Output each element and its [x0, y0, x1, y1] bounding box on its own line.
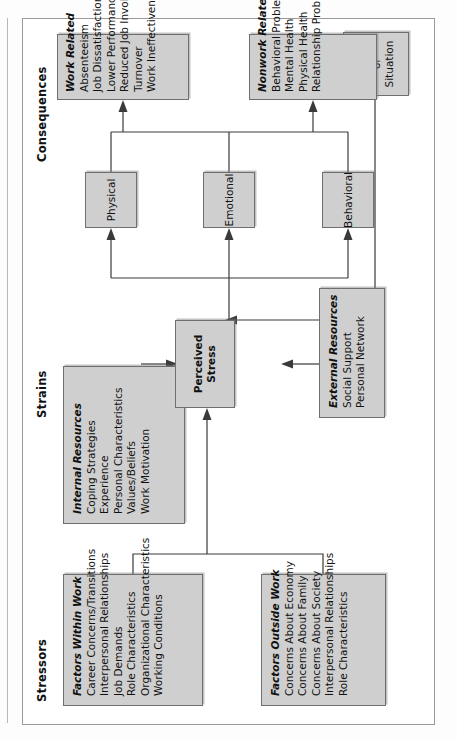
- box-item: Reduced Job Involvement: [118, 42, 132, 92]
- diagram-rotation-wrapper: Stressors Strains Consequences Factors W…: [22, 18, 435, 725]
- appraisal-line3: Situation: [383, 40, 396, 89]
- box-title: Internal Resources: [71, 376, 85, 514]
- arrowhead-trunk-to-perceived-stress: [203, 408, 212, 420]
- box-item: Personal Network: [354, 298, 368, 408]
- perceived-stress-line1: Perceived: [192, 335, 205, 393]
- column-heading-consequences: Consequences: [35, 67, 49, 162]
- link-outside-work-to-trunk: [207, 554, 323, 574]
- arrowhead-trunk-to-behavioral: [344, 228, 353, 240]
- box-item: Social Support: [341, 298, 355, 408]
- box-title: Factors Outside Work: [269, 584, 283, 696]
- strain-physical-label: Physical: [105, 179, 118, 222]
- box-factors-outside-work-content: Factors Outside Work Concerns About Econ…: [262, 575, 356, 705]
- box-factors-within-work-content: Factors Within Work Career Concerns/Tran…: [64, 575, 172, 705]
- box-item: Role Characteristics: [125, 584, 139, 696]
- box-item: Work Motivation: [139, 376, 153, 514]
- box-item: Role Characteristics: [337, 584, 351, 696]
- box-item: Absenteeism: [78, 42, 92, 92]
- box-nonwork-related-content: Nonwork Related Behavioral Problems Ment…: [250, 35, 330, 99]
- box-internal-resources[interactable]: Internal Resources Coping Strategies Exp…: [63, 366, 185, 524]
- box-item: Mental Health: [283, 42, 297, 92]
- column-heading-strains: Strains: [35, 370, 49, 418]
- arrowhead-external-to-stress: [281, 360, 293, 369]
- box-perceived-stress[interactable]: Perceived Stress: [175, 320, 235, 408]
- box-strain-physical[interactable]: Physical: [85, 172, 137, 228]
- strain-emotional-label: Emotional: [223, 174, 236, 227]
- box-work-related-content: Work Related Absenteeism Job Dissatisfac…: [58, 35, 165, 99]
- box-factors-outside-work[interactable]: Factors Outside Work Concerns About Econ…: [261, 574, 386, 706]
- arrowhead-trunk-to-physical: [107, 228, 116, 240]
- box-item: Concerns About Economy: [283, 584, 297, 696]
- box-item: Interpersonal Relationships: [98, 584, 112, 696]
- box-item: Work Ineffectiveness: [145, 42, 159, 92]
- box-item: Career Concerns/Transitions: [85, 584, 99, 696]
- box-item: Physical Health: [297, 42, 311, 92]
- box-title: Nonwork Related: [256, 42, 270, 92]
- box-item: Organizational Characteristics: [139, 584, 153, 696]
- box-title: External Resources: [327, 298, 341, 408]
- arrowhead-trunk-to-emotional: [225, 228, 234, 240]
- box-item: Interpersonal Relationships: [323, 584, 337, 696]
- strain-behavioral-label: Behavioral: [342, 172, 355, 228]
- box-title: Work Related: [64, 42, 78, 92]
- column-heading-stressors: Stressors: [35, 639, 49, 702]
- box-perceived-stress-label: Perceived Stress: [192, 335, 218, 393]
- box-item: Experience: [98, 376, 112, 514]
- box-item: Lower Performance: [105, 42, 119, 92]
- box-item: Relationship Problems: [310, 42, 324, 92]
- box-item: Personal Characteristics: [112, 376, 126, 514]
- box-item: Turnover: [132, 42, 146, 92]
- box-external-resources-content: External Resources Social Support Person…: [320, 289, 374, 417]
- box-item: Values/Beliefs: [125, 376, 139, 514]
- box-nonwork-related[interactable]: Nonwork Related Behavioral Problems Ment…: [249, 34, 377, 100]
- box-internal-resources-content: Internal Resources Coping Strategies Exp…: [64, 367, 158, 523]
- scanned-page: Stressors Strains Consequences Factors W…: [0, 0, 457, 741]
- perceived-stress-line2: Stress: [205, 335, 218, 393]
- box-factors-within-work[interactable]: Factors Within Work Career Concerns/Tran…: [63, 574, 203, 706]
- diagram-frame: Stressors Strains Consequences Factors W…: [22, 18, 435, 725]
- arrowhead-trunk-to-work-related: [119, 100, 128, 112]
- box-item: Coping Strategies: [85, 376, 99, 514]
- box-item: Working Conditions: [152, 584, 166, 696]
- box-title: Factors Within Work: [71, 584, 85, 696]
- box-work-related[interactable]: Work Related Absenteeism Job Dissatisfac…: [57, 34, 189, 100]
- box-strain-behavioral[interactable]: Behavioral: [322, 172, 374, 228]
- box-item: Job Dissatisfaction: [91, 42, 105, 92]
- box-item: Behavioral Problems: [270, 42, 284, 92]
- box-strain-emotional[interactable]: Emotional: [203, 172, 255, 228]
- arrowhead-trunk-to-nonwork-related: [309, 100, 318, 112]
- box-external-resources[interactable]: External Resources Social Support Person…: [319, 288, 385, 418]
- box-item: Concerns About Society: [310, 584, 324, 696]
- page-gutter-line: [7, 18, 8, 723]
- box-item: Concerns About Family: [296, 584, 310, 696]
- box-item: Job Demands: [112, 584, 126, 696]
